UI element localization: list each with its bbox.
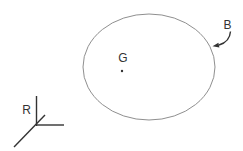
diagram-canvas: B G R — [0, 0, 243, 151]
label-center-of-gravity: G — [118, 51, 127, 65]
frame-axis-diagonal — [14, 115, 45, 147]
body-ellipse — [83, 14, 215, 120]
label-body: B — [223, 18, 231, 32]
label-reference-frame: R — [22, 103, 31, 117]
mechanics-figure: B G R — [0, 0, 243, 151]
arrowhead-icon — [213, 43, 220, 48]
center-point-dot — [121, 70, 123, 72]
arrow-curve — [219, 32, 231, 46]
